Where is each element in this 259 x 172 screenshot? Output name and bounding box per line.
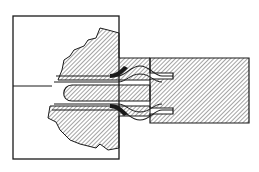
fractured-lower-region <box>48 106 150 150</box>
tongue <box>64 85 150 101</box>
right-hatched-bar <box>150 58 249 123</box>
joint-cross-section <box>0 0 259 172</box>
diagram <box>0 0 259 172</box>
fractured-upper-region <box>58 28 150 80</box>
